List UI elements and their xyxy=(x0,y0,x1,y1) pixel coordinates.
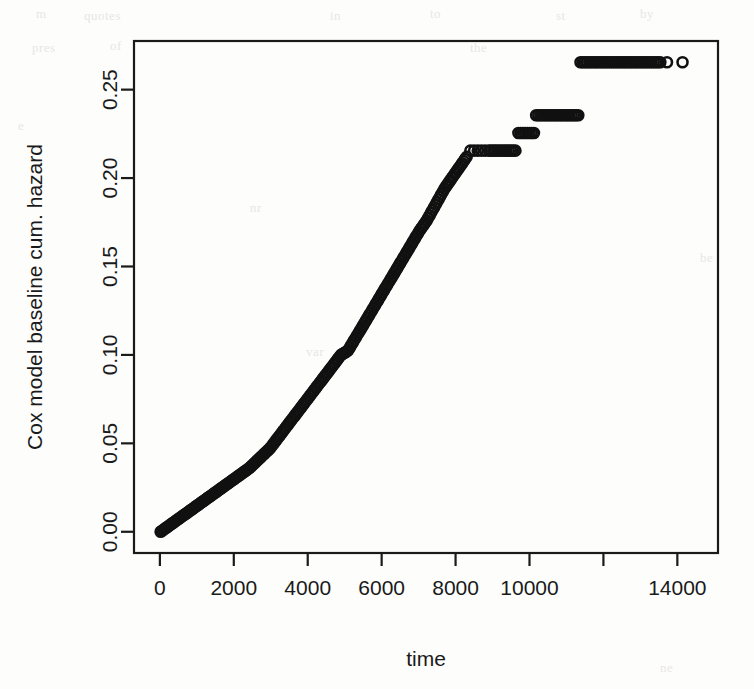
y-tick-label: 0.20 xyxy=(99,158,122,199)
x-tick-label: 4000 xyxy=(284,576,331,599)
plot-box-border xyxy=(134,41,718,553)
y-tick-label: 0.00 xyxy=(99,511,122,552)
x-tick-label: 8000 xyxy=(432,576,479,599)
data-series-baseline-hazard xyxy=(156,57,688,537)
y-tick-label: 0.15 xyxy=(99,246,122,287)
x-tick-label: 0 xyxy=(154,576,166,599)
x-tick-label: 6000 xyxy=(358,576,405,599)
x-tick-label: 10000 xyxy=(500,576,558,599)
figure-container: 0200040006000800010000140000.000.050.100… xyxy=(0,0,754,689)
x-tick-label: 14000 xyxy=(648,576,706,599)
x-axis-title: time xyxy=(406,647,446,670)
y-tick-label: 0.05 xyxy=(99,423,122,464)
y-tick-label: 0.10 xyxy=(99,334,122,375)
y-tick-label: 0.25 xyxy=(99,69,122,110)
y-axis: 0.000.050.100.150.200.25 xyxy=(99,69,135,552)
x-axis: 020004000600080001000014000 xyxy=(154,553,707,599)
y-axis-title: Cox model baseline cum. hazard xyxy=(23,144,46,450)
x-tick-label: 2000 xyxy=(210,576,257,599)
cox-baseline-hazard-plot: 0200040006000800010000140000.000.050.100… xyxy=(0,0,754,689)
data-point xyxy=(678,57,688,67)
